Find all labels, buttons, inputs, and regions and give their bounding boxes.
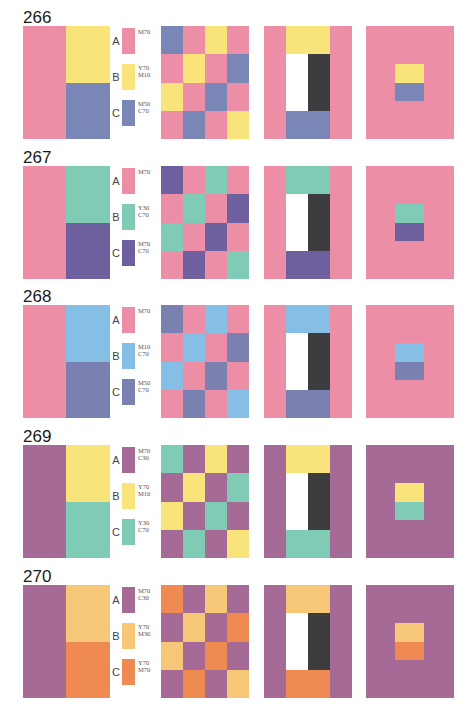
legend-color-code: Y70 M10 (138, 64, 150, 78)
legend-letter: A (112, 35, 120, 47)
palette-section: 267 AM70BY30 C70CM70 C70 (0, 166, 476, 306)
legend-color-code: M70 C30 (138, 447, 150, 461)
grid-cell (183, 26, 205, 54)
grid-cell (205, 54, 227, 82)
inset-block (366, 305, 454, 418)
grid-cell (161, 613, 183, 641)
legend-item-c: CM50 C70 (112, 100, 160, 126)
legend-item-a: AM70 (112, 168, 160, 194)
legend-color-code: M50 C70 (138, 100, 150, 114)
legend-color-code: M70 C30 (138, 587, 150, 601)
grid-cell (161, 54, 183, 82)
legend-swatch (122, 168, 135, 194)
checker-grid (161, 585, 249, 698)
palette-section: 270 AM70 C30BY70 M30CY70 M70 (0, 585, 476, 710)
checker-grid (161, 166, 249, 279)
grid-cell (227, 111, 249, 139)
legend-letter: C (112, 247, 120, 259)
grid-cell (161, 585, 183, 613)
legend-swatch (122, 64, 135, 90)
grid-cell (205, 473, 227, 501)
grid-cell (161, 166, 183, 194)
legend-letter: A (112, 175, 120, 187)
grid-cell (205, 585, 227, 613)
grid-cell (205, 166, 227, 194)
grid-cell (227, 54, 249, 82)
grid-cell (227, 83, 249, 111)
legend-swatch (122, 587, 135, 613)
frame-block (264, 26, 352, 139)
split-swatch-block (23, 26, 110, 139)
swatch-color-b (66, 305, 110, 362)
grid-cell (161, 251, 183, 279)
grid-cell (161, 83, 183, 111)
palette-number: 269 (23, 429, 51, 445)
inset-block (366, 445, 454, 558)
grid-cell (227, 530, 249, 558)
legend-letter: C (112, 386, 120, 398)
grid-cell (183, 670, 205, 698)
frame-block (264, 585, 352, 698)
grid-cell (161, 502, 183, 530)
legend-letter: A (112, 454, 120, 466)
grid-cell (161, 333, 183, 361)
legend-swatch (122, 100, 135, 126)
legend-color-code: M50 C70 (138, 379, 150, 393)
legend-item-b: BY70 M10 (112, 64, 160, 90)
grid-cell (227, 223, 249, 251)
swatch-color-b (66, 445, 110, 502)
legend-item-a: AM70 C30 (112, 587, 160, 613)
legend-color-code: M70 (138, 28, 150, 35)
legend-item-c: CY70 M70 (112, 659, 160, 685)
frame-bottom-color-c (286, 530, 330, 558)
color-legend: AM70 C30BY70 M30CY70 M70 (112, 585, 160, 698)
split-swatch-block (23, 305, 110, 418)
grid-cell (183, 333, 205, 361)
palette-number: 266 (23, 10, 51, 26)
frame-white-bar (286, 194, 308, 251)
grid-cell (161, 670, 183, 698)
swatch-color-c (66, 642, 110, 698)
legend-letter: B (112, 630, 120, 642)
grid-cell (227, 194, 249, 222)
grid-cell (205, 333, 227, 361)
legend-swatch (122, 519, 135, 545)
color-legend: AM70BY70 M10CM50 C70 (112, 26, 160, 139)
swatch-color-c (66, 362, 110, 418)
split-swatch-block (23, 585, 110, 698)
grid-cell (183, 111, 205, 139)
legend-swatch (122, 483, 135, 509)
inset-block (366, 166, 454, 279)
legend-letter: A (112, 594, 120, 606)
grid-cell (161, 26, 183, 54)
grid-cell (183, 502, 205, 530)
legend-letter: A (112, 314, 120, 326)
legend-color-code: M70 (138, 168, 150, 175)
grid-cell (227, 390, 249, 418)
grid-cell (227, 26, 249, 54)
frame-bottom-color-c (286, 251, 330, 279)
grid-cell (183, 251, 205, 279)
legend-color-code: Y30 C70 (138, 519, 149, 533)
frame-block (264, 305, 352, 418)
legend-letter: B (112, 490, 120, 502)
frame-block (264, 445, 352, 558)
grid-cell (227, 166, 249, 194)
checker-grid (161, 445, 249, 558)
frame-white-bar (286, 333, 308, 390)
legend-item-b: BY70 M30 (112, 623, 160, 649)
inset-color-c (395, 642, 424, 660)
legend-letter: C (112, 666, 120, 678)
checker-grid (161, 26, 249, 139)
legend-letter: B (112, 211, 120, 223)
grid-cell (161, 194, 183, 222)
grid-cell (205, 502, 227, 530)
grid-cell (205, 305, 227, 333)
grid-cell (227, 251, 249, 279)
frame-black-bar (308, 613, 330, 670)
grid-cell (183, 642, 205, 670)
legend-swatch (122, 659, 135, 685)
grid-cell (205, 445, 227, 473)
inset-color-c (395, 223, 424, 241)
grid-cell (183, 54, 205, 82)
